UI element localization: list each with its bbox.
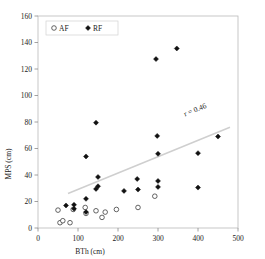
data-point-rf — [154, 57, 159, 62]
y-axis-tick-label: 160 — [21, 12, 33, 21]
data-point-af — [153, 194, 158, 199]
legend-label-af: AF — [59, 24, 69, 33]
scatter-plot-figure: 0100200300400500020406080100120140160BTh… — [0, 0, 265, 259]
data-point-rf — [96, 174, 101, 179]
data-point-rf — [174, 46, 179, 51]
data-point-af — [94, 208, 99, 213]
y-axis-title: MPS (cm) — [4, 148, 13, 180]
y-axis-tick-label: 60 — [25, 144, 33, 153]
plot-canvas: 0100200300400500020406080100120140160BTh… — [0, 0, 265, 259]
trend-line — [68, 127, 230, 193]
data-point-rf — [136, 187, 141, 192]
y-axis-tick-label: 100 — [21, 91, 33, 100]
data-point-af — [56, 208, 61, 213]
y-axis-tick-label: 80 — [25, 118, 33, 127]
x-axis-tick-label: 300 — [152, 234, 164, 243]
data-point-rf — [135, 176, 140, 181]
data-point-af — [103, 210, 108, 215]
correlation-annotation: r = 0.46 — [182, 101, 207, 118]
data-point-af — [61, 218, 66, 223]
y-axis-tick-label: 120 — [21, 65, 33, 74]
data-point-rf — [84, 196, 89, 201]
data-point-af — [114, 207, 119, 212]
y-axis-tick-label: 40 — [25, 171, 33, 180]
legend-marker-af — [52, 26, 57, 31]
legend-label-rf: RF — [93, 24, 102, 33]
x-axis-tick-label: 100 — [72, 234, 84, 243]
data-point-rf — [216, 134, 221, 139]
data-point-rf — [156, 178, 161, 183]
y-axis-tick-label: 0 — [28, 224, 32, 233]
data-point-rf — [196, 185, 201, 190]
x-axis-tick-label: 0 — [36, 234, 40, 243]
x-axis-tick-label: 400 — [192, 234, 204, 243]
data-point-af — [100, 215, 105, 220]
data-point-af — [136, 205, 141, 210]
data-point-rf — [196, 151, 201, 156]
y-axis-tick-label: 20 — [25, 197, 33, 206]
x-axis-title: BTh (cm) — [75, 247, 105, 256]
data-point-rf — [156, 184, 161, 189]
legend-box — [46, 21, 118, 35]
x-axis-tick-label: 200 — [112, 234, 124, 243]
data-point-rf — [155, 133, 160, 138]
x-axis-tick-label: 500 — [232, 234, 244, 243]
data-point-rf — [94, 120, 99, 125]
data-point-rf — [122, 188, 127, 193]
data-point-af — [68, 220, 73, 225]
y-axis-tick-label: 140 — [21, 38, 33, 47]
data-point-rf — [84, 154, 89, 159]
data-point-rf — [64, 203, 69, 208]
plot-frame — [38, 16, 238, 228]
data-point-af — [83, 205, 88, 210]
